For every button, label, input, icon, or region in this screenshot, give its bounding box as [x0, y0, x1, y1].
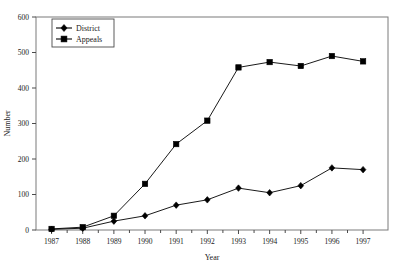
line-chart: 0100200300400500600Number198719881989199… — [0, 0, 401, 268]
data-point-marker — [111, 213, 116, 218]
x-axis-tick-label: 1989 — [106, 237, 121, 246]
x-axis-tick-label: 1992 — [200, 237, 215, 246]
y-axis-tick-label: 400 — [18, 84, 30, 93]
x-axis-tick-label: 1995 — [293, 237, 308, 246]
y-axis-tick-label: 0 — [25, 226, 29, 235]
data-point-marker — [329, 53, 334, 58]
data-point-marker — [61, 36, 67, 42]
y-axis-tick-label: 600 — [18, 13, 30, 22]
x-axis-tick-label: 1991 — [169, 237, 184, 246]
y-axis-title: Number — [3, 110, 12, 137]
data-point-marker — [173, 141, 178, 146]
y-axis-tick-label: 300 — [18, 119, 30, 128]
x-axis-tick-label: 1987 — [44, 237, 59, 246]
data-point-marker — [360, 59, 365, 64]
data-point-marker — [142, 181, 147, 186]
x-axis-title: Year — [205, 253, 220, 262]
x-axis-tick-label: 1996 — [324, 237, 339, 246]
legend-label: Appeals — [76, 35, 102, 44]
data-point-marker — [49, 226, 54, 231]
x-axis-tick-label: 1997 — [356, 237, 371, 246]
x-axis-tick-label: 1993 — [231, 237, 246, 246]
data-point-marker — [205, 118, 210, 123]
data-point-marker — [298, 63, 303, 68]
data-point-marker — [267, 59, 272, 64]
x-axis-tick-label: 1994 — [262, 237, 277, 246]
x-axis-tick-label: 1990 — [138, 237, 153, 246]
data-point-marker — [80, 224, 85, 229]
y-axis-tick-label: 500 — [18, 48, 30, 57]
y-axis-tick-label: 200 — [18, 155, 30, 164]
data-point-marker — [236, 65, 241, 70]
x-axis-tick-label: 1988 — [75, 237, 90, 246]
y-axis-tick-label: 100 — [18, 190, 30, 199]
chart-canvas: 0100200300400500600Number198719881989199… — [0, 0, 401, 268]
legend-label: District — [76, 24, 101, 33]
